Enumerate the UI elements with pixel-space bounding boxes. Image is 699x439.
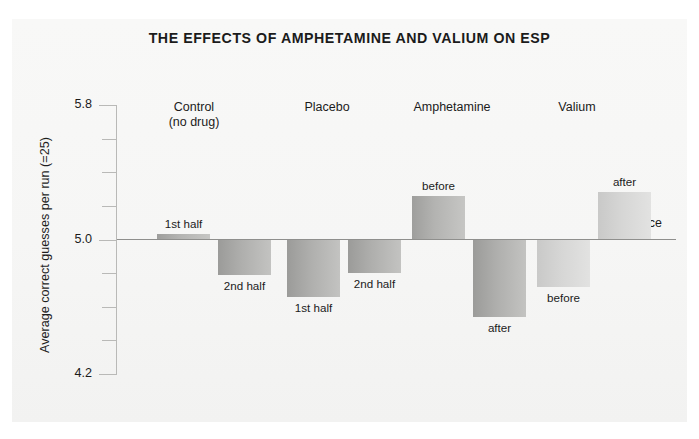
- bar-label: 1st half: [275, 301, 352, 314]
- bar-label: after: [461, 321, 538, 334]
- bar: [218, 240, 271, 275]
- y-axis-tick-minor: [102, 139, 117, 140]
- y-axis-tick-major: [99, 240, 117, 241]
- bar-label: after: [586, 175, 663, 188]
- y-axis-tick-label: 5.8: [46, 97, 92, 111]
- bar-label: before: [525, 291, 602, 304]
- bar-label: 2nd half: [336, 277, 413, 290]
- group-header-valium: Valium: [527, 100, 627, 115]
- y-axis-tick-minor: [102, 340, 117, 341]
- group-header-name: Control: [174, 100, 214, 114]
- bar-label: 2nd half: [206, 279, 283, 292]
- group-header-name: Placebo: [304, 100, 349, 114]
- y-axis-tick-minor: [102, 206, 117, 207]
- group-header-name: Valium: [558, 100, 595, 114]
- figure-canvas: THE EFFECTS OF AMPHETAMINE AND VALIUM ON…: [0, 0, 699, 439]
- y-axis-tick-label: 4.2: [46, 366, 92, 380]
- bar: [598, 192, 651, 239]
- group-header-placebo: Placebo: [272, 100, 382, 115]
- y-axis-tick-major: [99, 105, 117, 106]
- group-header-sublabel: (no drug): [139, 115, 249, 130]
- bar: [157, 234, 210, 239]
- group-header-amphetamine: Amphetamine: [392, 100, 512, 115]
- bar: [348, 240, 401, 274]
- y-axis-tick-minor: [102, 307, 117, 308]
- y-axis-tick-major: [99, 374, 117, 375]
- plot-area: chance Control(no drug)1st half2nd halfP…: [117, 105, 676, 374]
- y-axis-tick-minor: [102, 172, 117, 173]
- bar: [287, 240, 340, 297]
- y-axis-tick-minor: [102, 273, 117, 274]
- bar: [473, 240, 526, 317]
- bar: [412, 196, 465, 240]
- bar-label: 1st half: [145, 217, 222, 230]
- bar: [537, 240, 590, 287]
- group-header-name: Amphetamine: [413, 100, 490, 114]
- chart-title: THE EFFECTS OF AMPHETAMINE AND VALIUM ON…: [0, 30, 699, 46]
- group-header-control: Control(no drug): [139, 100, 249, 129]
- bar-label: before: [400, 179, 477, 192]
- y-axis-tick-label: 5.0: [46, 232, 92, 246]
